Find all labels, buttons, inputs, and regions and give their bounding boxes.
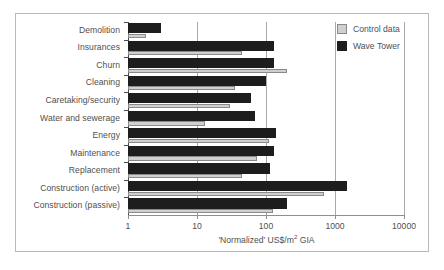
bar-group-energy [128,127,404,145]
chart-legend: Control dataWave Tower [337,22,423,56]
x-axis-title: 'Normalized' US$/m2 GIA [128,233,405,245]
y-axis-label-cleaning: Cleaning [16,77,120,87]
chart-figure: DemolitionInsurancesChurnCleaningCaretak… [0,0,444,270]
bar-control-data-replacement [128,174,242,178]
bar-group-water-and-sewerage [128,110,404,128]
x-tick-mark-10 [197,215,198,219]
bar-control-data-water-and-sewerage [128,121,205,125]
y-axis-label-maintenance: Maintenance [16,148,120,158]
bar-control-data-construction-active [128,192,324,196]
y-axis-label-construction-passive: Construction (passive) [16,200,120,210]
x-tick-label-1000: 1000 [325,221,344,231]
y-axis-category-labels: DemolitionInsurancesChurnCleaningCaretak… [16,22,124,215]
bar-group-maintenance [128,145,404,163]
x-tick-mark-10000 [404,215,405,219]
legend-swatch-wave-tower [337,41,347,51]
bar-control-data-insurances [128,51,242,55]
bar-control-data-demolition [128,34,146,38]
bar-wave-tower-construction-active [128,181,347,191]
bar-control-data-churn [128,69,287,73]
x-tick-label-1: 1 [126,221,131,231]
y-axis-label-construction-active: Construction (active) [16,183,120,193]
x-axis-title-superscript: 2 [294,233,297,240]
bar-wave-tower-cleaning [128,76,266,86]
bar-wave-tower-caretaking-security [128,93,251,103]
bar-control-data-cleaning [128,86,235,90]
bar-wave-tower-energy [128,128,276,138]
y-axis-label-energy: Energy [16,130,120,140]
x-tick-mark-1 [128,215,129,219]
y-axis-label-insurances: Insurances [16,42,120,52]
x-tick-mark-100 [266,215,267,219]
x-tick-label-10000: 10000 [392,221,416,231]
bar-control-data-energy [128,139,269,143]
y-axis-label-churn: Churn [16,60,120,70]
legend-label-wave-tower: Wave Tower [353,41,400,51]
bar-wave-tower-water-and-sewerage [128,111,255,121]
y-axis-label-replacement: Replacement [16,165,120,175]
bar-group-construction-active [128,180,404,198]
bar-wave-tower-demolition [128,23,161,33]
legend-label-control-data: Control data [353,24,400,34]
legend-swatch-control-data [337,24,347,34]
bar-group-replacement [128,162,404,180]
y-axis-label-demolition: Demolition [16,25,120,35]
bar-control-data-construction-passive [128,209,273,213]
bar-wave-tower-construction-passive [128,198,287,208]
bar-wave-tower-churn [128,58,274,68]
x-tick-label-10: 10 [192,221,202,231]
bar-wave-tower-maintenance [128,146,274,156]
bar-control-data-maintenance [128,156,257,160]
bar-group-construction-passive [128,197,404,215]
bar-group-caretaking-security [128,92,404,110]
x-tick-mark-1000 [335,215,336,219]
bar-control-data-caretaking-security [128,104,230,108]
y-axis-label-caretaking-security: Caretaking/security [16,95,120,105]
bar-group-churn [128,57,404,75]
legend-item-control-data[interactable]: Control data [337,22,423,37]
bar-wave-tower-replacement [128,163,270,173]
bar-group-cleaning [128,75,404,93]
bar-wave-tower-insurances [128,41,274,51]
legend-item-wave-tower[interactable]: Wave Tower [337,39,423,54]
x-tick-label-100: 100 [259,221,273,231]
y-axis-label-water-and-sewerage: Water and sewerage [16,113,120,123]
